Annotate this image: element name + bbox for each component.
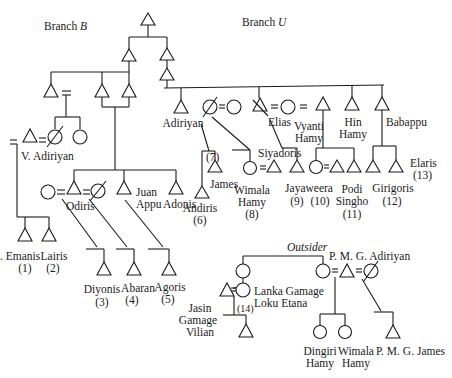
label-hin-hamy: Hamy: [338, 128, 368, 140]
label-juan: Juan: [136, 186, 157, 198]
label-andiris: Andiris: [180, 202, 220, 214]
branch-b-label: Branch B: [44, 20, 87, 32]
label-pmg-james: P. M. G. James: [376, 345, 445, 357]
kinship-diagram: Branch B Branch U V. Adiriyan Odiris Jua…: [0, 0, 452, 378]
branch-u-label: Branch U: [242, 16, 286, 28]
label-elaris: Elaris: [410, 157, 437, 169]
label-jasin-vilian: Vilian: [180, 326, 220, 338]
number-3: (3): [92, 296, 112, 308]
label-v-adiriyan: V. Adiriyan: [21, 150, 74, 162]
label-adiriyan: Adiriyan: [160, 117, 206, 129]
outsider-label: Outsider: [287, 241, 327, 253]
number-12: (12): [380, 195, 404, 207]
number-1: (1): [15, 262, 35, 274]
number-5: (5): [158, 293, 178, 305]
label-dingiri: Dingiri: [300, 345, 340, 357]
male-symbol: [141, 13, 155, 25]
label-jasin: Jasin: [180, 302, 220, 314]
label-wimala-hamy: Hamy: [232, 196, 272, 208]
label-lanka-gamage: Lanka Gamage: [254, 285, 324, 297]
number-4: (4): [122, 294, 142, 306]
number-2: (2): [43, 262, 63, 274]
label-singho: Singho: [334, 195, 370, 207]
label-lairis: Lairis: [39, 250, 69, 262]
number-9: (9): [288, 195, 306, 207]
label-pmg-adiriyan: P. M. G. Adiriyan: [329, 250, 410, 262]
label-jasin-gamage: Gamage: [176, 314, 220, 326]
number-7: (7): [206, 151, 219, 163]
label-wimala: Wimala: [232, 184, 272, 196]
label-loku-etana: Loku Etana: [254, 297, 307, 309]
label-appu: Appu: [136, 198, 162, 210]
number-6: (6): [190, 214, 210, 226]
label-girigoris: Girigoris: [368, 182, 418, 194]
label-jayaweera: Jayaweera: [284, 182, 334, 194]
label-podi: Podi: [337, 183, 367, 195]
label-wimala-2: Wimala: [336, 345, 376, 357]
label-odiris: Odiris: [66, 200, 95, 212]
label-agoris: Agoris: [152, 281, 188, 293]
label-vyanti-hamy: Hamy: [292, 132, 326, 144]
number-13: (13): [413, 169, 432, 181]
label-vyanti: Vyanti: [292, 120, 326, 132]
label-siyadoris: Siyadoris: [258, 147, 301, 159]
label-elias: Elias: [268, 116, 291, 128]
label-hin: Hin: [338, 116, 368, 128]
label-wimala-2-hamy: Hamy: [336, 357, 376, 369]
number-8: (8): [242, 208, 262, 220]
number-11: (11): [340, 208, 364, 220]
number-14: (14): [237, 303, 254, 315]
label-emanis: . Emanis: [0, 250, 36, 262]
label-babappu: Babappu: [386, 116, 427, 128]
number-10: (10): [308, 195, 332, 207]
label-dingiri-hamy: Hamy: [300, 357, 340, 369]
